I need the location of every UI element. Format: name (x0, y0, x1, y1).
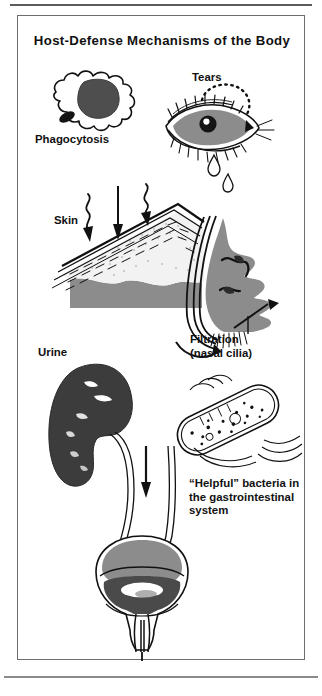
label-bacteria-line3: system (189, 504, 228, 516)
label-filtration: Filtration (nasal cilia) (190, 333, 308, 360)
label-filtration-line2: (nasal cilia) (190, 347, 252, 359)
label-phagocytosis: Phagocytosis (35, 133, 109, 147)
teardrop-icons (208, 155, 233, 192)
pathogen-wavy-arrow-left (83, 194, 93, 242)
illustration-panel: Host-Defense Mechanisms of the Body (17, 15, 305, 660)
label-tears: Tears (192, 71, 222, 85)
label-urine: Urine (38, 346, 67, 360)
urine-flow-arrow (141, 446, 151, 498)
pathogen-straight-arrow (113, 186, 123, 240)
eye-icon (166, 85, 274, 192)
bladder-icon (96, 536, 188, 652)
label-skin: Skin (54, 214, 78, 228)
figure-illustration: Host-Defense Mechanisms of the Body (0, 0, 322, 696)
skin-cross-section-icon (52, 184, 204, 308)
label-bacteria-line1: “Helpful” bacteria in (189, 477, 299, 489)
kidney-icon (49, 364, 132, 486)
urethra-outflow-arrow (138, 652, 146, 661)
bottom-divider-rule (4, 676, 318, 678)
label-filtration-line1: Filtration (190, 333, 239, 345)
label-bacteria-line2: the gastrointestinal (189, 491, 294, 503)
phagocyte-cell-icon (54, 71, 135, 130)
top-divider-rule (10, 4, 312, 6)
label-gi-bacteria: “Helpful” bacteria in the gastrointestin… (189, 477, 309, 518)
bacterium-icon (171, 375, 302, 467)
